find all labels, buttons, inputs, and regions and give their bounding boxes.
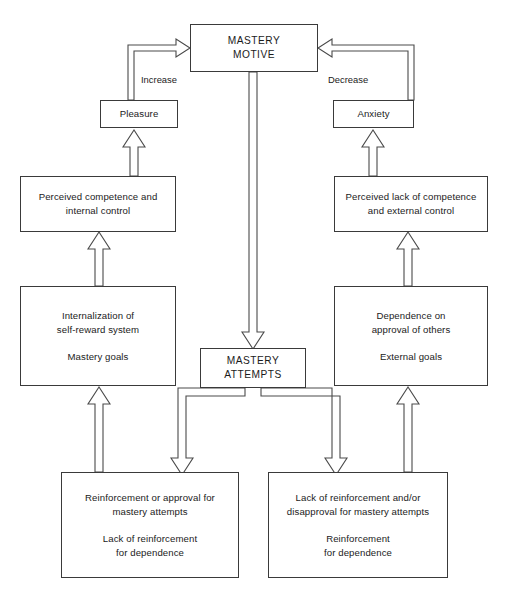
node-internalization[interactable]: Internalization of self-reward system Ma… bbox=[20, 286, 176, 386]
node-mastery-attempts-line2: ATTEMPTS bbox=[224, 368, 282, 382]
flowchart-canvas: MASTERY MOTIVE Pleasure Anxiety Perceive… bbox=[0, 0, 507, 601]
connector-mastery-attempts-to-reinforcement-positive bbox=[171, 388, 245, 475]
node-perceived-competence-line1: Perceived competence and bbox=[39, 190, 158, 204]
node-internalization-line1: Internalization of bbox=[62, 309, 134, 323]
node-anxiety-line1: Anxiety bbox=[357, 107, 389, 121]
node-mastery-motive[interactable]: MASTERY MOTIVE bbox=[190, 24, 318, 72]
node-dependence-line2: approval of others bbox=[372, 323, 451, 337]
edge-label-increase: Increase bbox=[141, 74, 177, 85]
node-reinforcement-positive-line4: for dependence bbox=[116, 546, 184, 560]
node-reinforcement-positive-line3: Lack of reinforcement bbox=[103, 532, 197, 546]
connector-competence-to-pleasure bbox=[123, 130, 145, 176]
node-mastery-motive-line2: MOTIVE bbox=[233, 48, 275, 62]
node-reinforcement-positive-line2: mastery attempts bbox=[112, 505, 187, 519]
node-mastery-motive-line1: MASTERY bbox=[228, 34, 281, 48]
node-mastery-attempts[interactable]: MASTERY ATTEMPTS bbox=[200, 348, 306, 388]
connector-reinforcement-positive-to-internalization bbox=[88, 387, 110, 472]
node-perceived-competence-line2: internal control bbox=[66, 204, 131, 218]
node-internalization-line2: self-reward system bbox=[57, 323, 139, 337]
node-pleasure-line1: Pleasure bbox=[120, 107, 159, 121]
connector-pleasure-to-mastery-motive bbox=[128, 39, 190, 100]
node-reinforcement-negative-line3: Reinforcement bbox=[326, 532, 390, 546]
node-reinforcement-positive-line1: Reinforcement or approval for bbox=[85, 491, 215, 505]
connector-mastery-motive-to-mastery-attempts bbox=[242, 72, 264, 349]
node-mastery-attempts-line1: MASTERY bbox=[227, 354, 280, 368]
node-internalization-line3: Mastery goals bbox=[67, 350, 128, 364]
node-perceived-competence[interactable]: Perceived competence and internal contro… bbox=[20, 176, 176, 232]
node-reinforcement-positive[interactable]: Reinforcement or approval for mastery at… bbox=[61, 472, 239, 578]
node-reinforcement-negative-line1: Lack of reinforcement and/or bbox=[296, 491, 421, 505]
node-reinforcement-negative-line2: disapproval for mastery attempts bbox=[287, 505, 429, 519]
node-dependence-line1: Dependence on bbox=[376, 309, 445, 323]
node-pleasure[interactable]: Pleasure bbox=[100, 100, 178, 128]
connector-lack-competence-to-anxiety bbox=[362, 130, 384, 176]
connector-anxiety-to-mastery-motive bbox=[318, 39, 414, 100]
node-reinforcement-negative[interactable]: Lack of reinforcement and/or disapproval… bbox=[268, 472, 448, 578]
node-dependence-line3: External goals bbox=[380, 350, 442, 364]
node-perceived-lack-competence-line1: Perceived lack of competence bbox=[346, 190, 477, 204]
node-anxiety[interactable]: Anxiety bbox=[333, 100, 414, 128]
node-perceived-lack-competence-line2: and external control bbox=[368, 204, 454, 218]
connector-mastery-attempts-to-reinforcement-negative bbox=[261, 388, 347, 475]
connector-reinforcement-negative-to-dependence bbox=[397, 387, 419, 472]
connector-internalization-to-competence bbox=[88, 232, 110, 286]
node-reinforcement-negative-line4: for dependence bbox=[324, 546, 392, 560]
edge-label-decrease: Decrease bbox=[328, 74, 368, 85]
node-perceived-lack-competence[interactable]: Perceived lack of competence and externa… bbox=[334, 176, 488, 232]
node-dependence[interactable]: Dependence on approval of others Externa… bbox=[334, 286, 488, 386]
connector-dependence-to-lack-competence bbox=[397, 232, 419, 286]
